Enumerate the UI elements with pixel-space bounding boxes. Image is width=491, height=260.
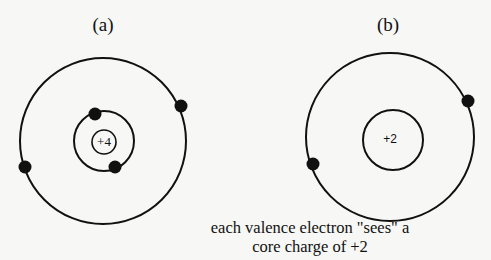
- electron-icon: [19, 161, 32, 174]
- core-charge-a: +4: [89, 134, 119, 150]
- caption: each valence electron "sees" a core char…: [150, 218, 470, 256]
- core-charge-b: +2: [375, 132, 405, 146]
- electron-icon: [462, 95, 475, 108]
- electron-icon: [307, 158, 320, 171]
- electron-icon: [109, 161, 122, 174]
- diagram-b-label: (b): [373, 14, 403, 36]
- caption-line-2: core charge of +2: [150, 237, 470, 256]
- caption-line-1: each valence electron "sees" a: [150, 218, 470, 237]
- electron-icon: [89, 108, 102, 121]
- diagram-a-label: (a): [88, 14, 118, 36]
- electron-icon: [175, 100, 188, 113]
